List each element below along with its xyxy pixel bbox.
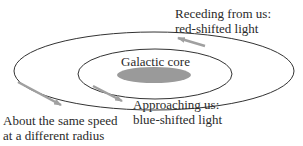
approaching-label-line2: blue-shifted light [133,112,222,127]
same-speed-arrow [18,82,61,105]
receding-arrow [178,38,205,46]
approaching-arrow [93,86,122,101]
same-speed-label-line2: at a different radius [3,128,117,143]
core-label: Galactic core [121,54,190,69]
galactic-core [117,67,191,83]
approaching-label-line1: Approaching us: [133,97,222,112]
approaching-label: Approaching us: blue-shifted light [133,97,222,127]
same-speed-label: About the same speed at a different radi… [3,113,117,143]
receding-label-line1: Receding from us: [175,6,271,21]
receding-label: Receding from us: red-shifted light [175,6,271,36]
same-speed-label-line1: About the same speed [3,113,117,128]
receding-label-line2: red-shifted light [175,21,271,36]
